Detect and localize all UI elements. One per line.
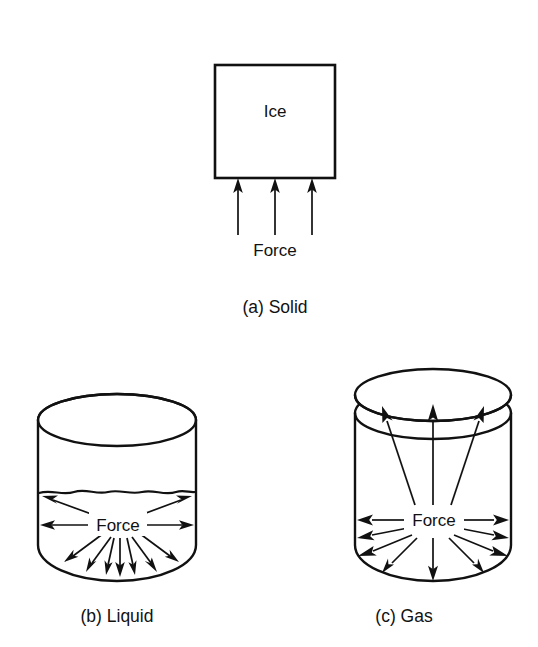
solid-force-arrows xyxy=(233,178,317,235)
states-of-matter-diagram: Ice Force (a) Solid xyxy=(0,0,538,647)
solid-force-arrow-3 xyxy=(307,178,317,235)
liquid-vessel-body xyxy=(38,394,196,581)
caption-solid: (a) Solid xyxy=(242,297,307,317)
panel-gas: Force (c) Gas xyxy=(355,369,511,626)
figure-root: Ice Force (a) Solid xyxy=(0,0,538,647)
gas-force-label: Force xyxy=(412,511,455,530)
solid-force-arrow-1 xyxy=(233,178,243,235)
solid-force-arrow-2 xyxy=(270,178,280,235)
panel-solid: Ice Force (a) Solid xyxy=(215,65,335,317)
panel-liquid: Force (b) Liquid xyxy=(38,394,196,626)
liquid-force-label: Force xyxy=(96,516,139,535)
solid-force-label: Force xyxy=(253,241,296,260)
caption-gas: (c) Gas xyxy=(375,606,433,626)
ice-block-outline xyxy=(215,65,335,178)
ice-label: Ice xyxy=(264,102,287,121)
caption-liquid: (b) Liquid xyxy=(81,606,154,626)
